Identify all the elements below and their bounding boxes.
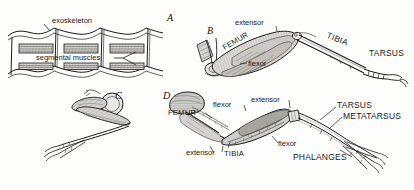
label-d-flexor-lower: flexor — [278, 139, 296, 148]
label-d-extensor-lower: extensor — [186, 148, 215, 157]
panel-label-b: B — [207, 25, 213, 36]
label-d-femur: FEMUR — [168, 108, 196, 117]
panel-label-d: D — [163, 90, 170, 101]
figure-canvas: A exoskeleton segmental muscles B extens… — [0, 0, 414, 190]
label-exoskeleton: exoskeleton — [52, 16, 92, 25]
label-b-extensor: extensor — [235, 18, 264, 27]
label-d-flexor-upper: flexor — [213, 100, 231, 109]
label-b-tarsus: TARSUS — [369, 48, 404, 58]
label-segmental-muscles: segmental muscles — [36, 53, 100, 62]
label-d-tibia: TIBIA — [224, 149, 244, 158]
label-d-tarsus: TARSUS — [337, 100, 372, 110]
panel-a-drawing — [8, 24, 163, 78]
panel-label-a: A — [167, 12, 173, 23]
panel-label-c: C — [115, 90, 122, 101]
label-d-metatarsus: METATARSUS — [343, 111, 401, 121]
label-d-extensor-upper: extensor — [251, 95, 280, 104]
label-d-phalanges: PHALANGES — [293, 152, 347, 162]
label-b-flexor: flexor — [248, 59, 266, 68]
